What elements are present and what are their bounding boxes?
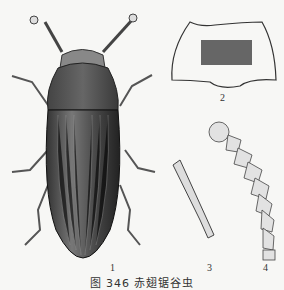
label-part-1: 1	[110, 262, 115, 273]
pronotum-patch	[201, 40, 252, 65]
antennae	[30, 14, 137, 52]
label-part-2: 2	[220, 92, 225, 103]
label-part-3: 3	[207, 262, 212, 273]
label-part-4: 4	[263, 262, 268, 273]
figure-caption: 图 346 赤翅锯谷虫	[0, 274, 284, 290]
